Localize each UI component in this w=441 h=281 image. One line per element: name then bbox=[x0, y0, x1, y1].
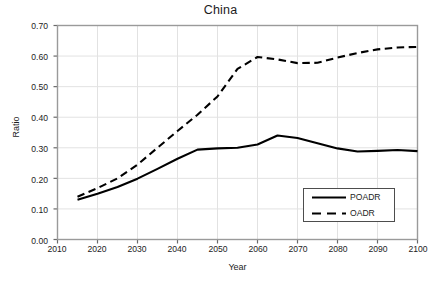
plot-area bbox=[0, 0, 441, 281]
data-series-layer bbox=[78, 47, 418, 200]
legend-swatch-solid-icon bbox=[310, 190, 348, 205]
chart-figure: China Ratio Year 0.70 0.60 0.50 0.40 0.3… bbox=[0, 0, 441, 281]
legend-label: POADR bbox=[350, 190, 381, 205]
legend-item-oadr: OADR bbox=[304, 206, 396, 221]
legend-label: OADR bbox=[350, 206, 375, 221]
legend-item-poadr: POADR bbox=[304, 190, 396, 205]
legend-swatch-dashed-icon bbox=[310, 206, 348, 221]
chart-legend: POADR OADR bbox=[303, 188, 395, 222]
series-line-oadr bbox=[78, 47, 418, 197]
